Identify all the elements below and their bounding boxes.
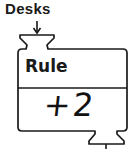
block-header: Rule	[25, 56, 68, 76]
input-arrow-icon	[34, 21, 41, 33]
rule-value: +2	[42, 86, 97, 124]
